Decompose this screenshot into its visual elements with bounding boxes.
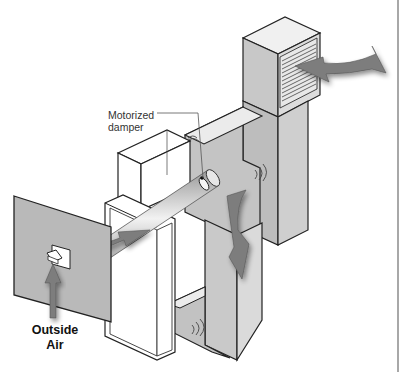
hvac-diagram [0,0,402,372]
outside-label-line1: Outside [25,323,85,338]
motorized-damper-label: Motorized damper [108,109,154,133]
outside-label-line2: Air [25,338,85,353]
damper-label-line1: Motorized [108,109,154,121]
page-edge-rule [397,0,399,372]
outside-wall [14,196,111,322]
outside-air-label: Outside Air [25,323,85,353]
damper-label-line2: damper [108,121,154,133]
